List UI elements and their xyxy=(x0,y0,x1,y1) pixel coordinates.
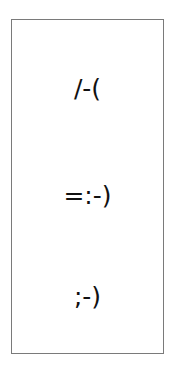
emoticon-wink: ;-) xyxy=(12,282,163,312)
emoticon-card: /-( =:-) ;-) xyxy=(11,19,164,354)
emoticon-frown: /-( xyxy=(12,74,163,104)
emoticon-smile: =:-) xyxy=(12,181,163,211)
